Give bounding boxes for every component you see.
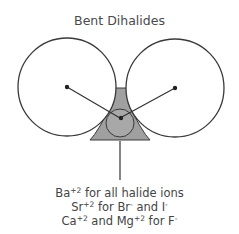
charge: +2 <box>134 214 145 223</box>
charge: - <box>175 214 178 223</box>
caption-text: for F <box>145 214 175 228</box>
charge: +2 <box>83 200 94 209</box>
charge: +2 <box>70 186 81 195</box>
metal-center <box>119 116 123 120</box>
halide-center-right <box>173 86 177 90</box>
caption-line-ca-mg: Ca+2 and Mg+2 for F- <box>0 212 239 228</box>
halide-center-left <box>65 85 69 89</box>
caption-text: and Mg <box>88 214 134 228</box>
charge: - <box>165 200 168 209</box>
ion-ca: Ca <box>62 214 77 228</box>
charge: +2 <box>77 214 88 223</box>
